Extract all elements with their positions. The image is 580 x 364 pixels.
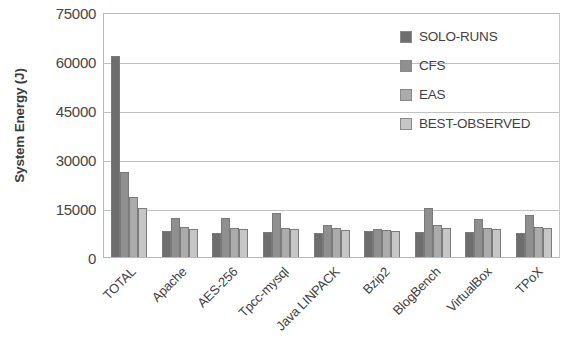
bar	[415, 232, 424, 257]
bar	[314, 233, 323, 257]
bar	[263, 232, 272, 257]
bar-group	[205, 14, 256, 257]
bar	[281, 228, 290, 257]
bar	[138, 208, 147, 257]
legend-item: CFS	[400, 51, 570, 80]
legend-swatch-icon	[400, 60, 412, 72]
legend-label: CFS	[419, 58, 445, 73]
bar	[525, 215, 534, 257]
y-axis-tick-label: 45000	[22, 103, 96, 120]
bar	[323, 225, 332, 257]
legend-item: BEST-OBSERVED	[400, 109, 570, 138]
bar	[474, 219, 483, 257]
bar	[483, 228, 492, 257]
bar	[221, 218, 230, 257]
bar	[516, 233, 525, 258]
bar-chart: System Energy (J) 7500060000450003000015…	[0, 0, 580, 364]
bar-group	[104, 14, 155, 257]
legend-item: SOLO-RUNS	[400, 22, 570, 51]
legend-label: SOLO-RUNS	[419, 29, 497, 44]
y-axis-tick-label: 60000	[22, 54, 96, 71]
bar	[364, 231, 373, 257]
y-axis-tick-label: 0	[22, 250, 96, 267]
bar	[111, 56, 120, 257]
bar	[189, 229, 198, 257]
bar-group	[256, 14, 307, 257]
bar	[442, 228, 451, 257]
bar	[373, 229, 382, 257]
bar	[171, 218, 180, 257]
bar	[290, 229, 299, 257]
bar	[465, 232, 474, 257]
bar	[382, 230, 391, 257]
y-axis-tick-label: 30000	[22, 152, 96, 169]
bar	[332, 228, 341, 257]
legend: SOLO-RUNSCFSEASBEST-OBSERVED	[400, 22, 570, 138]
bar-group	[155, 14, 206, 257]
bar	[492, 229, 501, 257]
bar	[239, 229, 248, 257]
bar	[120, 172, 129, 257]
legend-swatch-icon	[400, 31, 412, 43]
bar	[534, 227, 543, 257]
bar-group	[306, 14, 357, 257]
x-axis-tick-labels: TOTALApacheAES-256Tpcc-mysqlJava LINPACK…	[103, 258, 560, 364]
bar	[424, 208, 433, 257]
legend-swatch-icon	[400, 89, 412, 101]
bar	[129, 197, 138, 257]
bar	[272, 213, 281, 257]
legend-item: EAS	[400, 80, 570, 109]
bar	[162, 231, 171, 257]
bar	[543, 228, 552, 257]
y-axis-tick-label: 15000	[22, 201, 96, 218]
bar	[180, 227, 189, 257]
bar	[433, 225, 442, 257]
legend-label: BEST-OBSERVED	[419, 116, 530, 131]
bar	[391, 231, 400, 257]
bar	[212, 233, 221, 258]
legend-swatch-icon	[400, 118, 412, 130]
plot-area: SOLO-RUNSCFSEASBEST-OBSERVED	[103, 13, 560, 258]
legend-label: EAS	[419, 87, 445, 102]
bar	[341, 230, 350, 257]
bar	[230, 228, 239, 257]
y-axis-tick-label: 75000	[22, 5, 96, 22]
